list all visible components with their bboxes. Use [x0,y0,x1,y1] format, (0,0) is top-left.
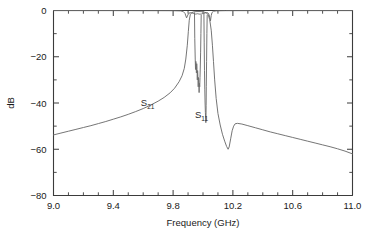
y-tick-label: 0 [41,5,46,16]
y-tick-label: −60 [30,144,46,155]
series-s21 [54,12,353,154]
axes-group: 0−20−40−60−809.09.49.810.210.611.0 [30,5,361,211]
series-s11-ripple-spike-a [194,13,201,93]
figure-container: 0−20−40−60−809.09.49.810.210.611.0 Frequ… [0,0,368,241]
y-axis-title: dB [5,97,16,109]
chart-svg: 0−20−40−60−809.09.49.810.210.611.0 Frequ… [0,0,368,241]
x-tick-label: 11.0 [344,200,362,211]
curves-group [54,11,353,154]
x-tick-label: 10.2 [224,200,243,211]
x-tick-label: 9.0 [47,200,60,211]
y-tick-label: −40 [30,98,46,109]
axis-frame-top-right [54,11,353,196]
x-tick-label: 10.6 [283,200,302,211]
y-tick-label: −80 [30,190,46,201]
series-s11-ripple-spike-b [204,13,207,122]
x-tick-label: 9.8 [166,200,179,211]
x-tick-label: 9.4 [107,200,120,211]
x-axis-title: Frequency (GHz) [167,217,240,228]
s21-annotation: S21 [141,97,155,110]
axis-frame-left-bottom [54,11,353,196]
y-tick-label: −20 [30,51,46,62]
